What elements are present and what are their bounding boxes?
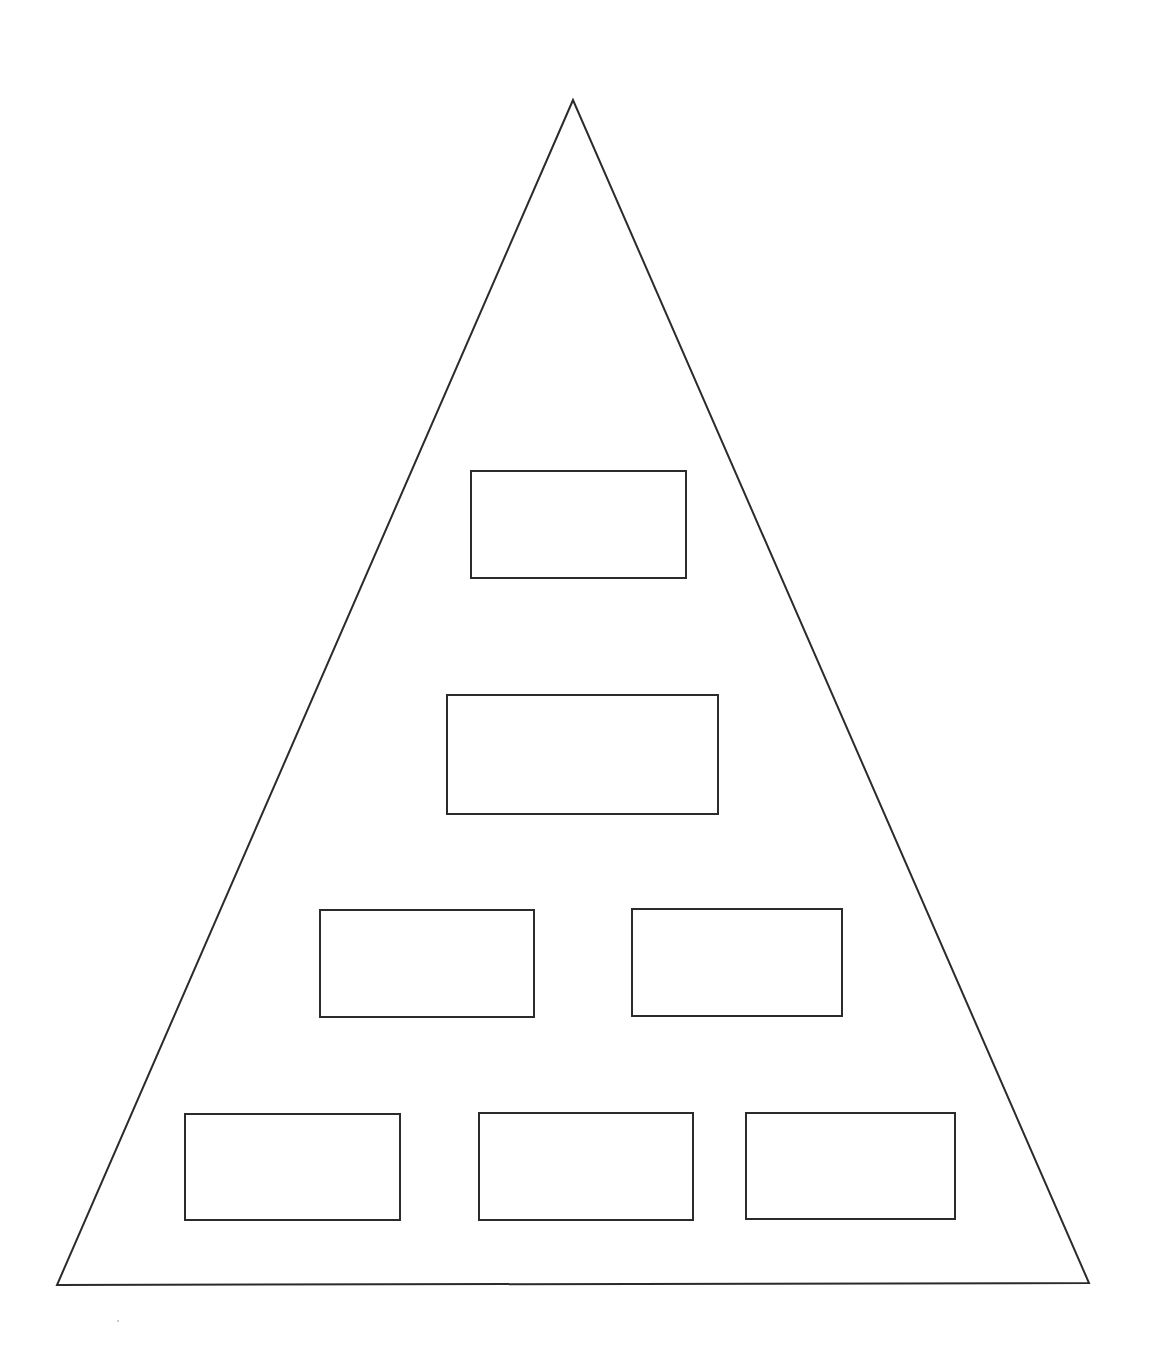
pyramid-box-level-4-left xyxy=(184,1113,401,1221)
triangle-outline xyxy=(57,100,1089,1285)
pyramid-box-level-4-right xyxy=(745,1112,956,1220)
pyramid-box-level-4-center xyxy=(478,1112,694,1221)
scan-speck xyxy=(117,1320,119,1322)
pyramid-box-level-2 xyxy=(446,694,719,815)
pyramid-box-level-3-right xyxy=(631,908,843,1017)
pyramid-box-level-1 xyxy=(470,470,687,579)
pyramid-diagram xyxy=(0,0,1153,1362)
pyramid-box-level-3-left xyxy=(319,909,535,1018)
